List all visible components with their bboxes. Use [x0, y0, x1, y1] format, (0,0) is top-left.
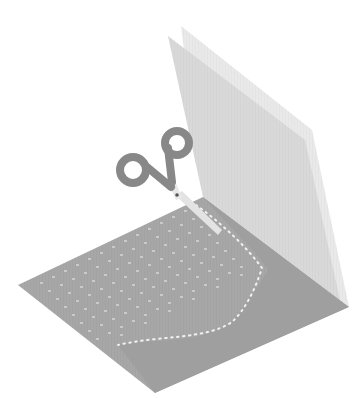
paper-cut-illustration — [0, 0, 359, 398]
illustration-canvas: Paper cutting illustration — [0, 0, 359, 398]
perforation-pattern — [0, 0, 3, 1]
